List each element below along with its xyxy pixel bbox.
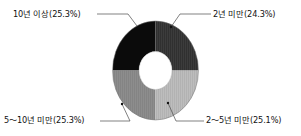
leader-dot-2-to-5y (167, 102, 169, 104)
donut-inner-hole (139, 52, 172, 90)
slice-label-under-2y: 2년 미만(24.3%) (213, 9, 275, 19)
leader-dot-under-2y (170, 26, 172, 28)
slice-label-10y-or-more: 10년 이상(25.3%) (13, 9, 80, 19)
slice-label-2-to-5y: 2～5년 미만(25.1%) (206, 115, 281, 125)
slice-label-5-to-10y: 5～10년 미만(25.3%) (4, 115, 84, 125)
donut-chart-figure: 10년 이상(25.3%) 2년 미만(24.3%) 2～5년 미만(25.1%… (0, 0, 301, 136)
leader-dot-5-to-10y (121, 103, 123, 105)
